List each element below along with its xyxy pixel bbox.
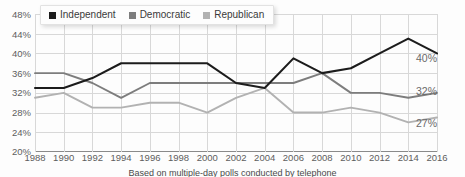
chart-caption: Based on multiple-day polls conducted by… bbox=[0, 168, 465, 177]
series-end-label-independent: 40% bbox=[416, 53, 437, 64]
legend-item-republican[interactable]: Republican bbox=[203, 10, 264, 20]
y-tick-label: 28% bbox=[0, 108, 31, 117]
legend-swatch-icon bbox=[203, 12, 210, 19]
y-tick-label: 32% bbox=[0, 88, 31, 97]
chart-legend: Independent Democratic Republican bbox=[40, 5, 274, 25]
y-tick-label: 40% bbox=[0, 49, 31, 58]
party-identification-line-chart: 48% 44% 40% 36% 32% 28% 24% 20% bbox=[0, 0, 465, 177]
y-tick-label: 48% bbox=[0, 10, 31, 19]
legend-label: Democratic bbox=[140, 10, 191, 20]
series-end-label-republican: 27% bbox=[416, 118, 437, 129]
y-tick-label: 24% bbox=[0, 128, 31, 137]
series-layer bbox=[35, 14, 437, 152]
series-end-label-democratic: 32% bbox=[416, 86, 437, 97]
legend-swatch-icon bbox=[49, 12, 56, 19]
plot-area bbox=[35, 14, 437, 152]
legend-swatch-icon bbox=[129, 12, 136, 19]
series-line-independent bbox=[35, 39, 437, 88]
legend-item-independent[interactable]: Independent bbox=[49, 10, 116, 20]
y-tick-label: 44% bbox=[0, 30, 31, 39]
legend-label: Republican bbox=[214, 10, 264, 20]
y-tick-label: 36% bbox=[0, 69, 31, 78]
legend-item-democratic[interactable]: Democratic bbox=[129, 10, 191, 20]
x-tick-label: 2016 bbox=[420, 153, 454, 163]
gridline-vertical bbox=[437, 14, 438, 152]
legend-label: Independent bbox=[60, 10, 116, 20]
